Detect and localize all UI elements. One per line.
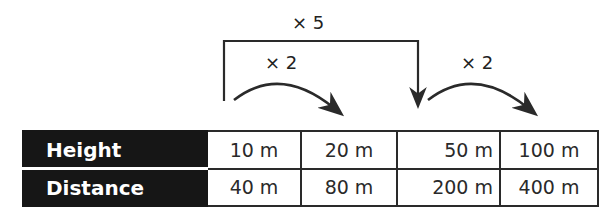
table-cell: 10 m (207, 131, 301, 169)
table-cell: 50 m (397, 131, 500, 169)
times-2-arc-arrow-left (234, 84, 334, 108)
table-cell: 40 m (207, 169, 301, 207)
times-5-label: × 5 (292, 12, 324, 33)
table-row-height: Height 10 m 20 m 50 m 100 m (23, 131, 598, 169)
row-header-distance: Distance (23, 169, 207, 207)
times-2-label-right: × 2 (461, 52, 493, 73)
table-row-distance: Distance 40 m 80 m 200 m 400 m (23, 169, 598, 207)
height-distance-table: Height 10 m 20 m 50 m 100 m Distance 40 … (22, 130, 599, 207)
times-2-label-left: × 2 (265, 52, 297, 73)
table-cell: 400 m (500, 169, 598, 207)
times-5-bracket-arrow (224, 41, 418, 101)
table-cell: 80 m (301, 169, 397, 207)
row-header-height: Height (23, 131, 207, 169)
table-cell: 200 m (397, 169, 500, 207)
table-cell: 100 m (500, 131, 598, 169)
table-cell: 20 m (301, 131, 397, 169)
times-2-arc-arrow-right (428, 84, 528, 108)
